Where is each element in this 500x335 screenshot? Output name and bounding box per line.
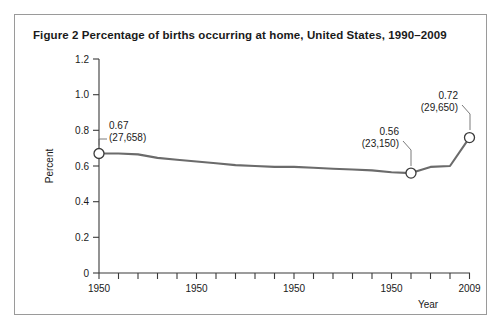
y-tick-label-0.6: 0.6 [75, 161, 89, 172]
data-marker-0.67 [94, 149, 104, 159]
annotation-0.72: 0.72 (29,650) [421, 90, 475, 143]
x-axis: 1950 1950 1950 1950 2009 Year [88, 273, 481, 310]
annotation-leader-0.72 [462, 105, 470, 130]
y-axis: 1.2 1.0 0.8 0.6 0.4 0.2 0 Percent [44, 54, 99, 279]
y-tick-label-1.0: 1.0 [75, 89, 89, 100]
annotation-count-0.72: (29,650) [421, 102, 458, 113]
x-tick-label-3: 1950 [380, 283, 403, 294]
annotation-value-0.67: 0.67 [109, 120, 129, 131]
y-tick-label-0.8: 0.8 [75, 125, 89, 136]
x-tick-label-1: 1950 [185, 283, 208, 294]
data-marker-0.56 [406, 168, 416, 178]
y-tick-label-0: 0 [83, 268, 89, 279]
x-tick-marks [99, 273, 470, 279]
y-tick-label-0.4: 0.4 [75, 196, 89, 207]
series-line [99, 138, 470, 174]
x-tick-label-0: 1950 [88, 283, 111, 294]
x-axis-title: Year [418, 299, 439, 310]
chart-plot-area: 1.2 1.0 0.8 0.6 0.4 0.2 0 Percent [15, 15, 488, 316]
figure-card: Figure 2 Percentage of births occurring … [14, 14, 487, 315]
annotation-value-0.56: 0.56 [380, 126, 400, 137]
annotation-leader-0.67 [99, 139, 107, 146]
annotation-leader-0.56 [403, 141, 411, 166]
data-marker-0.72 [465, 133, 475, 143]
annotation-count-0.56: (23,150) [362, 138, 399, 149]
x-tick-label-2: 1950 [283, 283, 306, 294]
x-tick-label-4: 2009 [458, 283, 481, 294]
y-tick-label-0.2: 0.2 [75, 232, 89, 243]
annotation-value-0.72: 0.72 [439, 90, 459, 101]
annotation-count-0.67: (27,658) [109, 132, 146, 143]
y-axis-title: Percent [44, 149, 55, 184]
y-tick-label-1.2: 1.2 [75, 54, 89, 65]
data-series [99, 138, 470, 174]
